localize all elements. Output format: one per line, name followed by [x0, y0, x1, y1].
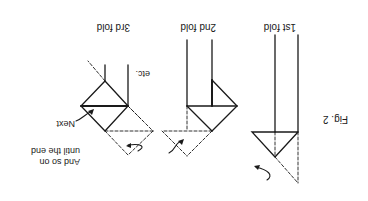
continue-annotation: And so on until the end: [31, 145, 80, 167]
fold-2-diamond-a: [212, 106, 237, 131]
fold-2-dashed-diag-a: [187, 131, 212, 156]
figure-canvas: 1st fold 2nd fold 3rd fold Fig. 2 etc. N…: [0, 0, 368, 201]
fold-3-dashed-top: [88, 61, 105, 81]
fold-1-drawing: [252, 35, 298, 183]
fold-3-title: 3rd fold: [97, 22, 130, 33]
fold-2-drawing: [162, 40, 237, 156]
fold-2-flap-diag: [212, 80, 237, 106]
continue-line-1: And so on: [31, 156, 80, 167]
etc-annotation: etc.: [135, 68, 150, 79]
continue-line-2: until the end: [31, 145, 80, 156]
fold-2-dashed-diag-b: [162, 131, 187, 156]
fold-1-dashed-diag: [275, 157, 298, 183]
fold-2-diamond-b: [187, 106, 212, 131]
fold-1-title: 1st fold: [264, 22, 296, 33]
fold-2-title: 2nd fold: [180, 22, 216, 33]
fold-3-dashed-a: [128, 106, 153, 131]
fold-3-dashed-c: [105, 131, 128, 155]
fold-3-arrowhead: [126, 143, 131, 148]
next-annotation: Next: [56, 118, 75, 129]
figure-caption: Fig. 2: [323, 114, 348, 125]
fold-3-dashed-d: [128, 131, 153, 155]
